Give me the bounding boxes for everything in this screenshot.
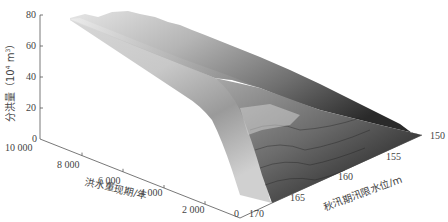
y-tick-155: 155	[386, 152, 401, 162]
z-title-sup1: 4	[4, 65, 11, 69]
z-title-prefix: 分洪量（10	[5, 69, 16, 122]
z-title-sup2: 3	[4, 49, 11, 53]
z-tick-40: 40	[26, 72, 36, 82]
z-tick-80: 80	[26, 10, 36, 20]
z-tick-20: 20	[26, 103, 36, 113]
x-tick-2000: 2 000	[182, 205, 205, 215]
y-tick-170: 170	[249, 209, 264, 219]
z-axis-title: 分洪量（104 m3）	[6, 39, 16, 122]
y-tick-160: 160	[338, 172, 353, 182]
z-tick-0: 0	[32, 134, 37, 144]
x-tick-8000: 8 000	[57, 160, 80, 170]
x-axis	[40, 139, 240, 218]
z-axis	[40, 15, 43, 139]
x-tick-10000: 10 000	[5, 143, 33, 153]
z-tick-60: 60	[26, 41, 36, 51]
x-tick-0: 0	[234, 209, 239, 219]
z-title-suffix: ）	[5, 39, 16, 49]
y-tick-150: 150	[430, 131, 445, 141]
y-tick-165: 165	[290, 193, 305, 203]
z-title-mid: m	[5, 53, 16, 66]
